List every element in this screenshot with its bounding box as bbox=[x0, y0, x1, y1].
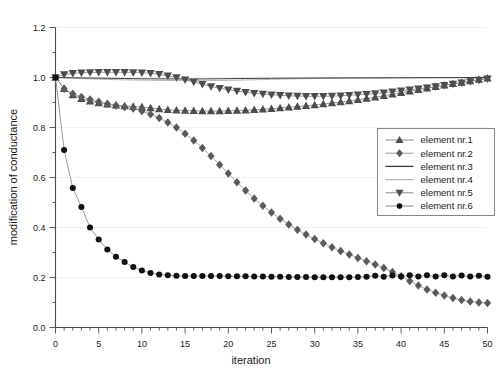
marker-circle bbox=[234, 273, 240, 279]
marker-circle bbox=[243, 273, 249, 279]
marker-circle bbox=[398, 273, 404, 279]
y-tick-label: 0.8 bbox=[33, 123, 46, 133]
marker-circle bbox=[397, 203, 403, 209]
legend-label: element nr.2 bbox=[421, 148, 473, 159]
y-tick-label: 0.0 bbox=[33, 323, 46, 333]
x-tick-label: 5 bbox=[96, 339, 101, 349]
x-tick-label: 50 bbox=[482, 339, 492, 349]
marker-circle bbox=[415, 273, 421, 279]
chart-legend[interactable]: element nr.1element nr.2element nr.3elem… bbox=[378, 129, 495, 216]
marker-circle bbox=[407, 272, 413, 278]
x-tick-label: 15 bbox=[180, 339, 190, 349]
marker-circle bbox=[156, 271, 162, 277]
marker-circle bbox=[225, 273, 231, 279]
marker-circle bbox=[173, 273, 179, 279]
x-tick-label: 0 bbox=[53, 339, 58, 349]
marker-circle bbox=[147, 270, 153, 276]
marker-circle bbox=[199, 273, 205, 279]
marker-circle bbox=[484, 274, 490, 280]
x-tick-label: 45 bbox=[439, 339, 449, 349]
marker-circle bbox=[52, 74, 58, 80]
marker-circle bbox=[277, 274, 283, 280]
marker-circle bbox=[260, 273, 266, 279]
marker-circle bbox=[251, 273, 257, 279]
marker-circle bbox=[87, 224, 93, 230]
marker-circle bbox=[165, 272, 171, 278]
marker-circle bbox=[450, 273, 456, 279]
chart-page: 05101520253035404550 0.00.20.40.60.81.01… bbox=[0, 0, 502, 376]
marker-circle bbox=[312, 274, 318, 280]
marker-circle bbox=[303, 274, 309, 280]
legend-label: element nr.3 bbox=[421, 161, 473, 172]
marker-circle bbox=[130, 264, 136, 270]
y-axis-title: modification of conductance bbox=[7, 109, 19, 245]
marker-circle bbox=[78, 204, 84, 210]
x-tick-label: 20 bbox=[223, 339, 233, 349]
marker-circle bbox=[113, 254, 119, 260]
marker-circle bbox=[355, 274, 361, 280]
conductance-line-chart: 05101520253035404550 0.00.20.40.60.81.01… bbox=[0, 0, 502, 376]
marker-circle bbox=[208, 273, 214, 279]
y-tick-label: 1.2 bbox=[33, 23, 46, 33]
marker-circle bbox=[329, 274, 335, 280]
marker-circle bbox=[70, 185, 76, 191]
marker-circle bbox=[294, 274, 300, 280]
marker-circle bbox=[268, 274, 274, 280]
x-tick-label: 30 bbox=[310, 339, 320, 349]
marker-circle bbox=[104, 246, 110, 252]
marker-circle bbox=[381, 274, 387, 280]
y-tick-label: 0.2 bbox=[33, 273, 46, 283]
legend-label: element nr.1 bbox=[421, 134, 473, 145]
marker-circle bbox=[476, 273, 482, 279]
x-tick-label: 35 bbox=[353, 339, 363, 349]
legend-label: element nr.6 bbox=[421, 200, 473, 211]
y-tick-label: 0.4 bbox=[33, 223, 46, 233]
marker-circle bbox=[320, 274, 326, 280]
legend-label: element nr.4 bbox=[421, 174, 473, 185]
marker-circle bbox=[61, 147, 67, 153]
marker-circle bbox=[96, 236, 102, 242]
x-tick-label: 10 bbox=[137, 339, 147, 349]
marker-circle bbox=[139, 267, 145, 273]
marker-circle bbox=[363, 274, 369, 280]
y-tick-label: 1.0 bbox=[33, 73, 46, 83]
marker-circle bbox=[389, 272, 395, 278]
marker-circle bbox=[467, 273, 473, 279]
marker-circle bbox=[433, 273, 439, 279]
legend-label: element nr.5 bbox=[421, 187, 473, 198]
marker-circle bbox=[372, 273, 378, 279]
x-tick-label: 25 bbox=[266, 339, 276, 349]
y-tick-label: 0.6 bbox=[33, 173, 46, 183]
marker-circle bbox=[217, 273, 223, 279]
marker-circle bbox=[459, 272, 465, 278]
marker-circle bbox=[338, 274, 344, 280]
x-tick-label: 40 bbox=[396, 339, 406, 349]
marker-circle bbox=[122, 259, 128, 265]
marker-circle bbox=[424, 272, 430, 278]
marker-circle bbox=[286, 274, 292, 280]
marker-circle bbox=[182, 273, 188, 279]
marker-circle bbox=[441, 272, 447, 278]
marker-circle bbox=[346, 274, 352, 280]
x-axis-title: iteration bbox=[231, 354, 270, 366]
marker-circle bbox=[191, 273, 197, 279]
